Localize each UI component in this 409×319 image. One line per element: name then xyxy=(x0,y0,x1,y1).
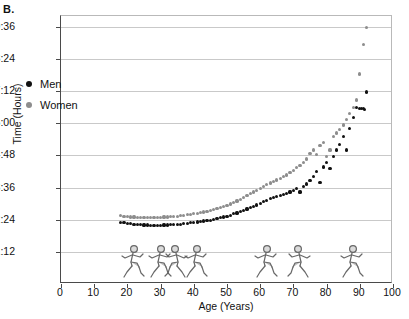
runner-woman-adult-illustration xyxy=(183,244,209,282)
y-tick-mark xyxy=(56,123,61,124)
data-point-women xyxy=(352,106,355,109)
y-axis-title: Time (Hours) xyxy=(11,69,23,159)
data-point-women xyxy=(275,178,278,181)
y-tick-label: 7:12 xyxy=(0,84,15,96)
data-point-men xyxy=(342,135,345,138)
runner-man-senior-illustration xyxy=(286,244,312,282)
data-point-women xyxy=(292,169,295,172)
data-point-men xyxy=(335,148,338,151)
data-point-women xyxy=(192,212,195,215)
y-tick-label: 1:12 xyxy=(0,245,15,257)
data-point-men xyxy=(332,155,335,158)
legend-label-women: Women xyxy=(40,99,78,111)
legend-swatch-men-icon xyxy=(26,81,32,87)
gridline xyxy=(61,155,391,156)
data-point-men xyxy=(245,207,248,210)
data-point-women xyxy=(182,214,185,217)
data-point-men xyxy=(265,199,268,202)
data-point-men xyxy=(322,165,325,168)
data-point-men xyxy=(275,195,278,198)
data-point-men xyxy=(345,148,348,151)
data-point-men xyxy=(182,222,185,225)
runner-woman-young-illustration xyxy=(120,244,146,282)
data-point-women xyxy=(288,171,291,174)
legend-label-men: Men xyxy=(40,78,61,90)
gridline xyxy=(61,91,391,92)
y-tick-mark xyxy=(56,188,61,189)
data-point-women xyxy=(325,155,328,158)
gridline xyxy=(61,220,391,221)
y-tick-label: 3:36 xyxy=(0,181,15,193)
data-point-men xyxy=(308,179,311,182)
data-point-women xyxy=(265,183,268,186)
runner-man-middleaged-illustration xyxy=(253,244,279,282)
y-tick-mark xyxy=(56,155,61,156)
y-tick-mark xyxy=(56,27,61,28)
data-point-women xyxy=(312,148,315,151)
data-point-women xyxy=(172,215,175,218)
data-point-women xyxy=(338,128,341,131)
data-point-men xyxy=(312,175,315,178)
data-point-men xyxy=(172,223,175,226)
x-tick-label: 20 xyxy=(111,286,141,298)
gridline xyxy=(61,59,391,60)
data-point-women xyxy=(335,131,338,134)
x-tick-label: 90 xyxy=(344,286,374,298)
data-point-women xyxy=(345,118,348,121)
y-tick-mark xyxy=(56,220,61,221)
y-tick-label: 8:24 xyxy=(0,52,15,64)
data-point-men xyxy=(315,170,318,173)
chart-legend: Men Women xyxy=(26,78,78,120)
data-point-women xyxy=(308,152,311,155)
x-tick-label: 70 xyxy=(277,286,307,298)
x-tick-label: 50 xyxy=(211,286,241,298)
data-point-women xyxy=(355,98,358,101)
data-point-women xyxy=(348,112,351,115)
gridline xyxy=(61,188,391,189)
x-tick-label: 10 xyxy=(78,286,108,298)
y-tick-label: 9:36 xyxy=(0,20,15,32)
plot-area xyxy=(60,15,392,283)
y-tick-mark xyxy=(56,252,61,253)
data-point-women xyxy=(322,141,325,144)
data-point-men xyxy=(363,108,366,111)
data-point-women xyxy=(365,26,368,29)
x-tick-label: 80 xyxy=(311,286,341,298)
data-point-women xyxy=(245,194,248,197)
data-point-men xyxy=(298,190,301,193)
data-point-men xyxy=(338,143,341,146)
data-point-women xyxy=(279,177,282,180)
data-point-women xyxy=(342,123,345,126)
data-point-women xyxy=(255,189,258,192)
y-tick-label: 2:24 xyxy=(0,213,15,225)
data-point-women xyxy=(358,72,361,75)
gridline xyxy=(61,27,391,28)
runner-man-elderly-illustration xyxy=(339,244,365,282)
data-point-men xyxy=(255,203,258,206)
data-point-women xyxy=(328,148,331,151)
data-point-women xyxy=(305,157,308,160)
data-point-men xyxy=(318,181,321,184)
data-point-women xyxy=(285,173,288,176)
data-point-men xyxy=(192,221,195,224)
data-point-men xyxy=(259,202,262,205)
data-point-men xyxy=(365,90,368,93)
x-tick-label: 60 xyxy=(244,286,274,298)
data-point-men xyxy=(328,167,331,170)
data-point-women xyxy=(362,43,365,46)
panel-label: B. xyxy=(3,3,15,15)
x-tick-label: 40 xyxy=(178,286,208,298)
x-axis-title: Age (Years) xyxy=(60,300,392,312)
legend-item-men: Men xyxy=(26,78,78,90)
data-point-women xyxy=(318,144,321,147)
legend-item-women: Women xyxy=(26,99,78,111)
legend-swatch-women-icon xyxy=(26,102,32,108)
x-tick-label: 30 xyxy=(145,286,175,298)
data-point-women xyxy=(302,161,305,164)
data-point-women xyxy=(298,164,301,167)
data-point-men xyxy=(352,116,355,119)
data-point-men xyxy=(348,127,351,130)
y-tick-label: 4:48 xyxy=(0,148,15,160)
data-point-men xyxy=(325,161,328,164)
y-tick-label: 6:00 xyxy=(0,116,15,128)
